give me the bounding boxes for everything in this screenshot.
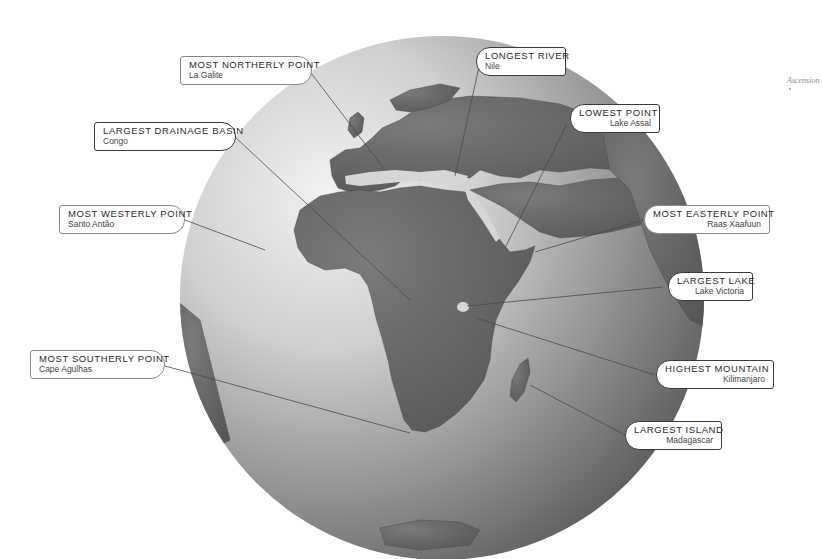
callout-most-northerly-point: MOST NORTHERLY POINT La Galite xyxy=(180,56,312,85)
callout-largest-island: LARGEST ISLAND Madagascar xyxy=(625,421,722,450)
callout-most-westerly-point: MOST WESTERLY POINT Santo Antão xyxy=(59,205,185,234)
callout-longest-river: LONGEST RIVER Nile xyxy=(476,47,566,76)
callout-most-southerly-point: MOST SOUTHERLY POINT Cape Agulhas xyxy=(30,350,165,379)
map-label-ascension: Ascension xyxy=(787,76,819,85)
ascension-marker-icon xyxy=(789,88,791,90)
africa-globe-diagram: MOST NORTHERLY POINT La Galite LONGEST R… xyxy=(0,0,823,559)
callout-value: Lake Victoria xyxy=(677,287,744,297)
callout-value: Congo xyxy=(103,137,227,147)
callout-value: La Galite xyxy=(189,71,303,81)
callout-value: Cape Agulhas xyxy=(39,365,156,375)
callout-lowest-point: LOWEST POINT Lake Assal xyxy=(570,104,660,133)
callout-highest-mountain: HIGHEST MOUNTAIN Kilimanjaro xyxy=(656,360,774,389)
callout-largest-lake: LARGEST LAKE Lake Victoria xyxy=(668,272,753,301)
callout-value: Kilimanjaro xyxy=(665,375,765,385)
callout-most-easterly-point: MOST EASTERLY POINT Raas Xaafuun xyxy=(644,205,770,234)
callout-value: Lake Assal xyxy=(579,119,651,129)
callout-value: Nile xyxy=(485,62,557,72)
callout-largest-drainage-basin: LARGEST DRAINAGE BASIN Congo xyxy=(94,122,236,151)
callout-value: Raas Xaafuun xyxy=(653,220,761,230)
lake-victoria xyxy=(457,302,469,312)
callout-value: Madagascar xyxy=(634,436,713,446)
callout-value: Santo Antão xyxy=(68,220,176,230)
